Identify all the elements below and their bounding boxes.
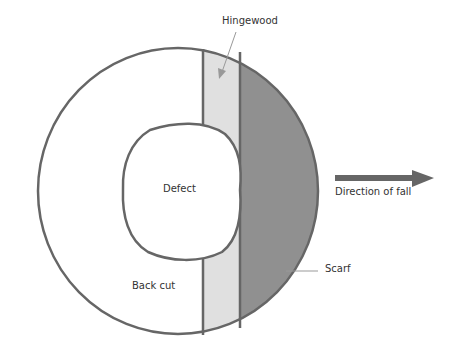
scarf-region: [240, 40, 330, 340]
backcut-label: Back cut: [132, 280, 175, 291]
scarf-label: Scarf: [325, 263, 351, 274]
felling-diagram: [0, 0, 458, 354]
defect-label: Defect: [163, 183, 196, 194]
direction-label: Direction of fall: [335, 186, 411, 197]
direction-arrow-head-icon: [412, 170, 434, 187]
direction-arrow-shaft: [335, 175, 413, 181]
hingewood-label: Hingewood: [222, 15, 278, 26]
